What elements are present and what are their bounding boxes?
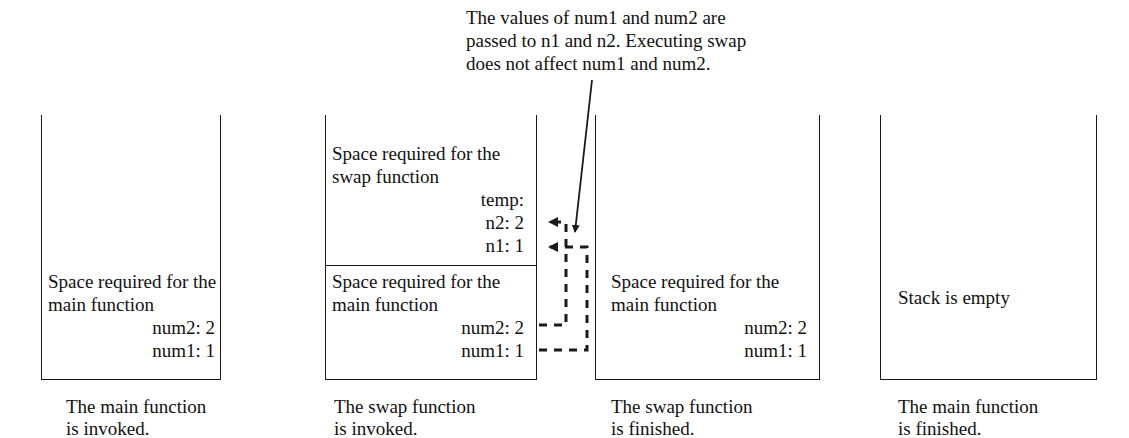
main-frame-1-heading: Space required for the main function (48, 270, 223, 316)
callout-pointer-arrow (575, 80, 592, 232)
main-frame-2-var-num2: num2: 2 (332, 316, 524, 339)
frame-divider-stage-2 (325, 265, 537, 266)
swap-frame-2-var-n2: n2: 2 (332, 211, 524, 234)
main-frame-3-var-num2: num2: 2 (611, 316, 807, 339)
main-frame-3-heading: Space required for the main function (611, 270, 811, 316)
main-frame-1-var-num1: num1: 1 (48, 339, 215, 362)
main-frame-2-var-num1: num1: 1 (332, 339, 524, 362)
empty-frame-4-heading: Stack is empty (898, 286, 1098, 309)
dashed-arrow-num2-to-n2 (539, 222, 566, 325)
main-frame-3-var-num1: num1: 1 (611, 339, 807, 362)
swap-frame-2-var-temp: temp: (332, 188, 524, 211)
caption-stage-2: The swap function is invoked. (334, 396, 544, 438)
caption-stage-1: The main function is invoked. (66, 396, 266, 438)
annotation-callout: The values of num1 and num2 are passed t… (466, 6, 766, 75)
main-frame-1-var-num2: num2: 2 (48, 316, 215, 339)
stack-trace-diagram: The values of num1 and num2 are passed t… (0, 0, 1129, 438)
main-frame-2-heading: Space required for the main function (332, 270, 532, 316)
stack-frame-stage-4 (880, 115, 1097, 380)
swap-frame-2-heading: Space required for the swap function (332, 142, 532, 188)
caption-stage-3: The swap function is finished. (611, 396, 821, 438)
dashed-arrow-num1-to-n1 (539, 247, 587, 350)
swap-frame-2-var-n1: n1: 1 (332, 234, 524, 257)
caption-stage-4: The main function is finished. (898, 396, 1108, 438)
